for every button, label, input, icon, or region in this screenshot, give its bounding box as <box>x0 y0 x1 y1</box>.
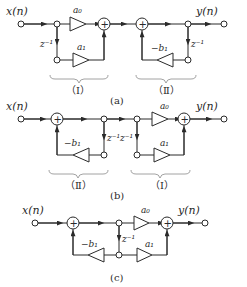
delay-label: z⁻¹ <box>106 133 120 143</box>
coef-neg-b1-label: −b₁ <box>81 239 98 249</box>
gain-a0-triangle <box>152 112 168 126</box>
output-label: y(n) <box>195 100 218 113</box>
delay-label: z⁻¹ <box>190 39 204 49</box>
branch-node <box>54 21 60 27</box>
coef-a1-label: a₁ <box>160 138 169 148</box>
delay-node <box>185 57 191 63</box>
input-node <box>18 21 24 27</box>
panel-a: x(n) y(n) a₀ + + z⁻¹ a₁ z⁻¹ −b₁ <box>6 5 227 106</box>
branch-node <box>134 116 140 122</box>
input-label: x(n) <box>22 204 44 217</box>
panel-caption: (c) <box>110 272 124 283</box>
section-label: （Ⅰ） <box>150 180 174 191</box>
panel-caption: (b) <box>110 190 124 201</box>
delay-node <box>134 152 140 158</box>
gain-a1-triangle <box>137 248 152 262</box>
adder-plus: + <box>54 114 62 125</box>
adder-plus: + <box>181 114 189 125</box>
gain-neg-b1-triangle <box>157 53 173 67</box>
delay-label: z⁻¹ <box>39 39 53 49</box>
section-label: （Ⅱ） <box>153 85 180 96</box>
section-brace <box>131 170 190 178</box>
adder-plus: + <box>70 218 78 229</box>
coef-neg-b1-label: −b₁ <box>151 43 168 53</box>
input-label: x(n) <box>6 100 28 113</box>
output-node <box>202 220 208 226</box>
panel-b: x(n) y(n) + a₀ + z⁻¹ −b₁ z⁻¹ a₁ <box>6 100 227 201</box>
gain-neg-b1-triangle <box>73 148 89 162</box>
delay-node <box>54 57 60 63</box>
adder-plus: + <box>164 218 172 229</box>
branch-node <box>101 116 107 122</box>
delay-label: z⁻¹ <box>121 234 135 244</box>
coef-a1-label: a₁ <box>145 239 154 249</box>
section-brace <box>49 170 108 178</box>
coef-a0-label: a₀ <box>73 5 82 15</box>
output-label: y(n) <box>195 5 218 18</box>
section-brace <box>50 75 108 83</box>
edge <box>152 229 167 255</box>
section-label: （Ⅰ） <box>66 85 90 96</box>
delay-label: z⁻¹ <box>119 133 133 143</box>
signal-flow-diagram: x(n) y(n) a₀ + + z⁻¹ a₁ z⁻¹ −b₁ <box>0 0 247 287</box>
gain-a1-triangle <box>73 53 89 67</box>
section-brace <box>136 75 196 83</box>
output-label: y(n) <box>177 204 200 217</box>
coef-a0-label: a₀ <box>141 205 150 215</box>
edge <box>89 30 104 60</box>
panel-c: x(n) y(n) + a₀ + z⁻¹ −b₁ a₁ (c) <box>22 204 208 283</box>
branch-node <box>116 220 122 226</box>
panel-caption: (a) <box>110 95 124 106</box>
output-node <box>221 21 227 27</box>
delay-node <box>101 152 107 158</box>
gain-a0-triangle <box>134 216 149 230</box>
adder-plus: + <box>139 19 147 30</box>
section-label: （Ⅱ） <box>65 180 92 191</box>
gain-a1-triangle <box>154 148 170 162</box>
delay-node <box>116 252 122 258</box>
input-label: x(n) <box>6 5 28 18</box>
coef-neg-b1-label: −b₁ <box>64 138 81 148</box>
coef-a0-label: a₀ <box>160 101 169 111</box>
gain-neg-b1-triangle <box>88 248 104 262</box>
input-node <box>18 116 24 122</box>
edge <box>170 125 184 155</box>
gain-a0-triangle <box>70 17 86 31</box>
branch-node <box>185 21 191 27</box>
input-node <box>32 220 38 226</box>
output-node <box>221 116 227 122</box>
coef-a1-label: a₁ <box>77 42 86 52</box>
adder-plus: + <box>101 19 109 30</box>
